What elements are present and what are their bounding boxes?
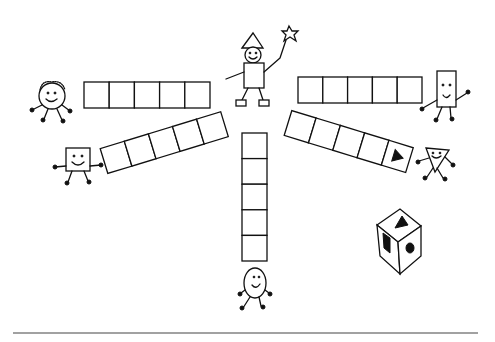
- board-cell[interactable]: [109, 82, 134, 108]
- board-cell[interactable]: [242, 210, 267, 236]
- oval-character[interactable]: [238, 268, 272, 310]
- board-cell[interactable]: [298, 77, 323, 103]
- board-cell[interactable]: [397, 77, 422, 103]
- shape-die[interactable]: [377, 209, 421, 274]
- path-circle: [84, 82, 210, 108]
- board-cell[interactable]: [372, 77, 397, 103]
- path-triangle: [284, 111, 413, 173]
- triangle-character[interactable]: [416, 148, 455, 181]
- circle-character[interactable]: [30, 82, 72, 123]
- board-cell[interactable]: [134, 82, 159, 108]
- wizard-figure: [226, 26, 298, 106]
- board-cell[interactable]: [160, 82, 185, 108]
- board-cell[interactable]: [242, 133, 267, 159]
- board-cell[interactable]: [323, 77, 348, 103]
- die-circle-icon: [406, 243, 414, 253]
- path-rectangle: [298, 77, 422, 103]
- wizard-hat-icon: [242, 33, 263, 48]
- wizard-head: [245, 47, 261, 63]
- star-wand-icon: [282, 26, 298, 41]
- wizard-body: [244, 63, 264, 88]
- board-cell[interactable]: [348, 77, 373, 103]
- path-square: [100, 112, 228, 174]
- board-cell[interactable]: [242, 235, 267, 261]
- board-cell[interactable]: [185, 82, 210, 108]
- board-cell[interactable]: [84, 82, 109, 108]
- board-cell[interactable]: [242, 184, 267, 210]
- game-board: [0, 0, 495, 342]
- rectangle-character[interactable]: [420, 71, 470, 122]
- path-oval: [242, 133, 267, 261]
- square-character[interactable]: [53, 148, 103, 185]
- board-cell[interactable]: [242, 159, 267, 185]
